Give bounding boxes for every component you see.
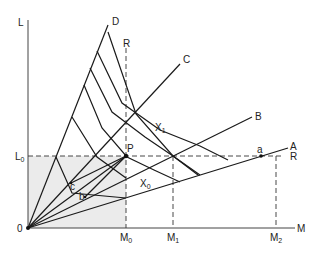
point-P-label: P	[127, 143, 134, 154]
constraint-R-top-label: R	[123, 38, 130, 49]
tick-M1: M1	[167, 232, 179, 244]
tick-L0: L0	[15, 151, 25, 163]
point-P	[124, 154, 128, 158]
point-a-label: a	[257, 144, 263, 155]
constraint-R-right-label: R	[290, 151, 297, 162]
point-b-label: b	[79, 191, 85, 202]
tick-M0: M0	[120, 232, 132, 244]
isoquant-X0-label: X0	[140, 178, 151, 190]
tick-M2: M2	[270, 232, 282, 244]
point-c-label: c	[70, 181, 75, 192]
ray-C-label: C	[183, 54, 190, 65]
isoquant-X1-label: X1	[155, 122, 166, 134]
ray-D-label: D	[112, 16, 119, 27]
x-axis-label: M	[297, 223, 305, 234]
origin-point	[26, 226, 30, 230]
y-axis-label: L	[18, 17, 24, 28]
diagram-canvas: L M 0 D C B A R R L0 M0 M1 M2 X0 X1 P a …	[0, 0, 318, 256]
origin-label: 0	[17, 223, 23, 234]
ray-B-label: B	[255, 111, 262, 122]
